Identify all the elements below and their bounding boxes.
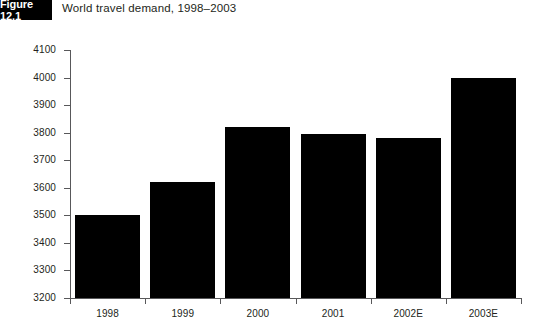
y-axis-tick-label: 3700 bbox=[0, 154, 56, 165]
y-axis-tick-label: 4100 bbox=[0, 44, 56, 55]
figure-header: Figure 12.1 World travel demand, 1998–20… bbox=[0, 0, 536, 22]
x-axis-tick-label: 2003E bbox=[446, 308, 521, 319]
x-axis-tick bbox=[446, 298, 447, 304]
y-axis-tick-label: 3900 bbox=[0, 99, 56, 110]
bar-2000 bbox=[225, 127, 290, 298]
x-axis-tick-label: 1998 bbox=[70, 308, 145, 319]
y-axis-tick-label: 3300 bbox=[0, 264, 56, 275]
x-axis-tick bbox=[371, 298, 372, 304]
x-axis-tick bbox=[145, 298, 146, 304]
figure-title: World travel demand, 1998–2003 bbox=[62, 2, 236, 14]
x-axis-tick bbox=[521, 298, 522, 304]
x-axis-tick bbox=[220, 298, 221, 304]
bar-2003E bbox=[451, 78, 516, 298]
x-axis-tick-label: 2001 bbox=[296, 308, 371, 319]
figure-number-badge: Figure 12.1 bbox=[0, 0, 52, 20]
y-axis-tick-label: 3200 bbox=[0, 292, 56, 303]
bar-2002E bbox=[376, 138, 441, 298]
x-axis-tick bbox=[70, 298, 71, 304]
bar-2001 bbox=[301, 134, 366, 298]
y-axis-tick-label: 3600 bbox=[0, 182, 56, 193]
bar-1999 bbox=[150, 182, 215, 298]
x-axis-tick-label: 2002E bbox=[371, 308, 446, 319]
bar-series bbox=[70, 50, 522, 298]
x-axis-tick bbox=[296, 298, 297, 304]
x-axis-tick-label: 1999 bbox=[145, 308, 220, 319]
bar-1998 bbox=[75, 215, 140, 298]
y-axis-tick-label: 3500 bbox=[0, 209, 56, 220]
x-axis-tick-label: 2000 bbox=[220, 308, 295, 319]
y-axis-tick-label: 3400 bbox=[0, 237, 56, 248]
bar-chart: 4100400039003800370036003500340033003200… bbox=[0, 26, 536, 335]
y-axis-tick-label: 4000 bbox=[0, 72, 56, 83]
y-axis-tick-label: 3800 bbox=[0, 127, 56, 138]
